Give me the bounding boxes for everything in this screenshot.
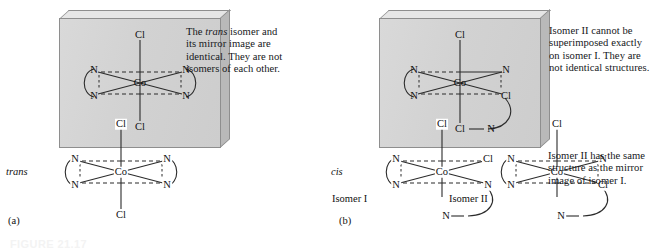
panel-a: Cl N N Co N N Cl [0, 0, 331, 247]
atom-cl-equatorial: Cl [500, 91, 512, 102]
atom-cl-axial-bottom: Cl [115, 210, 127, 221]
callout-panel-b-top: Isomer II cannot be superimposed exactly… [549, 25, 662, 75]
callout-line-2: its mirror image are [186, 38, 271, 49]
atom-n-upper-left: N [409, 65, 419, 76]
figure-caption-id: FIGURE 21.17 [10, 238, 87, 250]
callout-line-4: isomers of each other. [186, 63, 280, 74]
atom-n-chelate-bottom: N [441, 211, 451, 222]
label-trans: trans [6, 166, 28, 177]
atom-n-upper-right: N [501, 65, 511, 76]
atom-cl-axial-top: Cl [134, 30, 146, 41]
atom-co-center: Co [435, 167, 449, 178]
atom-cl-axial-top: Cl [454, 30, 466, 41]
label-isomer-two: Isomer II [449, 193, 488, 204]
atom-n-chelate-bottom: N [556, 211, 566, 222]
callout-line-1-post: isomer and [227, 26, 277, 37]
callout-line-1-emphasis: trans [205, 26, 227, 37]
atom-n-upper-left: N [89, 65, 99, 76]
atom-n-lower-left: N [506, 180, 516, 191]
callout-panel-b-right: Isomer II has the same structure as the … [548, 150, 662, 187]
atom-n-upper-left: N [391, 154, 401, 165]
callout-line-1-pre: The [186, 26, 205, 37]
callout-line-2: structure as the mirror [548, 162, 643, 173]
atom-cl-axial-top: Cl [436, 119, 448, 130]
atom-n-lower-right: N [162, 180, 172, 191]
atom-cl-axial-top: Cl [115, 119, 127, 130]
callout-line-3: image of isomer I. [548, 175, 627, 186]
atom-n-lower-left: N [409, 91, 419, 102]
atom-n-upper-right: N [162, 154, 172, 165]
atom-n-lower-left: N [89, 91, 99, 102]
atom-co-center: Co [133, 78, 147, 89]
atom-n-upper-left: N [70, 154, 80, 165]
atom-co-center: Co [114, 167, 128, 178]
callout-line-1: Isomer II has the same [548, 150, 645, 161]
callout-panel-a: The trans isomer and its mirror image ar… [186, 26, 310, 76]
panel-a-caption: (a) [8, 215, 20, 226]
callout-line-3: identical. They are not [186, 51, 282, 62]
label-cis: cis [331, 166, 343, 177]
atom-n-lower-right: N [181, 91, 191, 102]
callout-line-1: Isomer II cannot be [549, 25, 633, 36]
panel-b: Cl N N Co N Cl Cl N [331, 0, 662, 247]
panel-b-caption: (b) [339, 215, 351, 226]
callout-line-2: superimposed exactly [549, 37, 642, 48]
atom-n-lower-left: N [70, 180, 80, 191]
molecule-trans-mirror: Cl N N Co N N Cl [46, 119, 196, 227]
atom-n-upper-left: N [506, 154, 516, 165]
callout-line-3: on isomer I. They are [549, 50, 641, 61]
atom-cl-axial-top: Cl [551, 119, 563, 130]
label-isomer-one: Isomer I [332, 193, 367, 204]
atom-co-center: Co [453, 78, 467, 89]
callout-line-4: not identical structures. [549, 62, 649, 73]
atom-n-lower-left: N [391, 180, 401, 191]
